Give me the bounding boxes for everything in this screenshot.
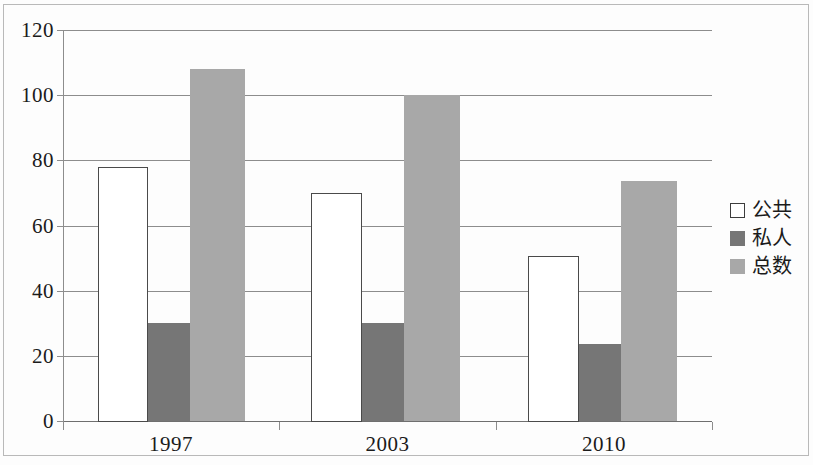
- gridline-120: [63, 30, 712, 31]
- legend-item-public: 公共: [730, 196, 810, 224]
- y-tick-label-80: 80: [32, 148, 54, 173]
- bar-private-1997: [148, 323, 190, 421]
- y-tick-label-100: 100: [21, 83, 54, 108]
- y-tick-label-120: 120: [21, 18, 54, 43]
- plot-area: 120 100 80 60 40 20 0: [0, 0, 813, 465]
- legend-label-private: 私人: [752, 228, 792, 248]
- gridline-80: [63, 160, 712, 161]
- bar-total-2003: [404, 95, 460, 421]
- chart-legend: 公共 私人 总数: [730, 196, 810, 280]
- bar-private-2003: [362, 323, 404, 421]
- x-tick-1: [279, 422, 280, 430]
- bar-total-1997: [190, 69, 245, 421]
- bar-public-1997: [98, 167, 148, 422]
- bar-total-2010: [621, 181, 677, 421]
- bar-public-2003: [311, 193, 362, 422]
- chart-figure: 120 100 80 60 40 20 0: [0, 0, 813, 465]
- legend-swatch-public-icon: [730, 203, 745, 218]
- gridline-40: [63, 291, 712, 292]
- x-tick-label-2010: 2010: [496, 432, 712, 457]
- y-tick-label-40: 40: [32, 279, 54, 304]
- gridline-100: [63, 95, 712, 96]
- legend-label-total: 总数: [752, 256, 792, 276]
- legend-swatch-private-icon: [730, 231, 745, 246]
- legend-item-total: 总数: [730, 252, 810, 280]
- x-tick-0: [63, 422, 64, 430]
- y-tick-label-20: 20: [32, 344, 54, 369]
- gridline-60: [63, 226, 712, 227]
- x-tick-label-1997: 1997: [63, 432, 279, 457]
- legend-swatch-total-icon: [730, 259, 745, 274]
- legend-item-private: 私人: [730, 224, 810, 252]
- y-tick-label-0: 0: [43, 409, 54, 434]
- bar-public-2010: [528, 256, 579, 422]
- x-tick-3: [712, 422, 713, 430]
- x-tick-label-2003: 2003: [279, 432, 496, 457]
- y-axis-line: [63, 30, 64, 426]
- x-tick-2: [496, 422, 497, 430]
- y-tick-label-60: 60: [32, 214, 54, 239]
- gridline-0-baseline: [63, 421, 712, 422]
- bar-private-2010: [579, 344, 621, 421]
- legend-label-public: 公共: [752, 200, 792, 220]
